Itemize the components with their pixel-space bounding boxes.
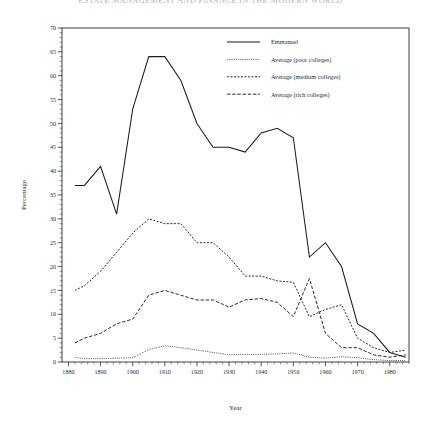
x-tick-label: 1980 bbox=[384, 369, 396, 375]
x-tick-label: 1890 bbox=[94, 369, 106, 375]
y-tick-label: 55 bbox=[50, 97, 56, 103]
y-tick-label: 25 bbox=[50, 240, 56, 246]
x-tick-label: 1910 bbox=[159, 369, 171, 375]
y-tick-label: 50 bbox=[50, 121, 56, 127]
chart-legend: EmmanuelAverage (poor colleges)Average (… bbox=[227, 38, 340, 98]
y-tick-label: 35 bbox=[50, 192, 56, 198]
legend-label-2: Average (medium colleges) bbox=[271, 73, 340, 81]
figure-page: Estate management and finance in the mod… bbox=[0, 0, 421, 434]
y-tick-label: 40 bbox=[50, 168, 56, 174]
plot-frame bbox=[62, 28, 409, 362]
x-axis-ticks bbox=[68, 362, 409, 366]
x-tick-label: 1930 bbox=[223, 369, 235, 375]
y-axis-ticks bbox=[58, 28, 62, 362]
legend-label-0: Emmanuel bbox=[271, 38, 299, 45]
y-tick-label: 15 bbox=[50, 288, 56, 294]
y-tick-label: 0 bbox=[53, 359, 56, 365]
line-chart-figure: 0510152025303540455055606570 18801890190… bbox=[0, 10, 421, 425]
running-head: Estate management and finance in the mod… bbox=[0, 0, 421, 4]
y-tick-label: 5 bbox=[53, 335, 56, 341]
chart-canvas: 0510152025303540455055606570 18801890190… bbox=[0, 10, 421, 425]
series-line-emmanuel bbox=[75, 57, 406, 358]
y-tick-label: 30 bbox=[50, 216, 56, 222]
y-tick-label: 20 bbox=[50, 264, 56, 270]
data-series-group bbox=[75, 57, 406, 361]
y-tick-label: 70 bbox=[50, 25, 56, 31]
y-axis-title: Percentage bbox=[20, 180, 27, 210]
x-tick-label: 1960 bbox=[319, 369, 331, 375]
legend-label-3: Average (rich colleges) bbox=[271, 91, 330, 99]
x-tick-label: 1940 bbox=[255, 369, 267, 375]
legend-label-1: Average (poor colleges) bbox=[271, 56, 331, 64]
x-axis-tick-labels: 1880189019001910192019301940195019601970… bbox=[62, 369, 395, 375]
x-tick-label: 1900 bbox=[127, 369, 139, 375]
x-tick-label: 1950 bbox=[287, 369, 299, 375]
x-tick-label: 1880 bbox=[62, 369, 74, 375]
y-tick-label: 10 bbox=[50, 311, 56, 317]
y-tick-label: 45 bbox=[50, 144, 56, 150]
x-tick-label: 1920 bbox=[191, 369, 203, 375]
y-tick-label: 60 bbox=[50, 73, 56, 79]
x-tick-label: 1970 bbox=[351, 369, 363, 375]
y-tick-label: 65 bbox=[50, 49, 56, 55]
y-axis-tick-labels: 0510152025303540455055606570 bbox=[50, 25, 56, 365]
x-axis-title: Year bbox=[229, 404, 242, 411]
series-line-average-medium-colleges bbox=[75, 219, 406, 353]
